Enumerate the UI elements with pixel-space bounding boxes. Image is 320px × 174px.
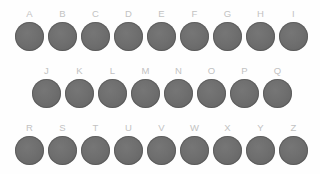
circle-disc-l[interactable] [98,79,127,108]
circle-disc-q[interactable] [263,79,292,108]
circle-row-2: J K L M N O P Q [30,66,294,108]
circle-label-v: V [158,123,165,134]
circle-label-i: I [292,9,295,20]
circle-label-s: S [59,123,66,134]
circle-disc-r[interactable] [15,136,44,165]
circle-label-z: Z [290,123,296,134]
circle-label-c: C [92,9,99,20]
circle-disc-m[interactable] [131,79,160,108]
circle-cell-y[interactable]: Y [244,123,277,165]
circle-disc-a[interactable] [15,22,44,51]
circle-label-l: L [110,66,115,77]
circle-cell-f[interactable]: F [178,9,211,51]
circle-cell-r[interactable]: R [13,123,46,165]
circle-disc-w[interactable] [180,136,209,165]
circle-disc-o[interactable] [197,79,226,108]
circle-cell-h[interactable]: H [244,9,277,51]
circle-cell-t[interactable]: T [79,123,112,165]
circle-label-a: A [26,9,33,20]
circle-label-g: G [224,9,232,20]
circle-cell-b[interactable]: B [46,9,79,51]
circle-disc-b[interactable] [48,22,77,51]
circle-cell-c[interactable]: C [79,9,112,51]
circle-disc-k[interactable] [65,79,94,108]
circle-cell-n[interactable]: N [162,66,195,108]
circle-label-d: D [125,9,132,20]
circle-cell-i[interactable]: I [277,9,310,51]
circle-disc-v[interactable] [147,136,176,165]
circle-label-u: U [125,123,132,134]
circle-label-w: W [190,123,199,134]
circle-label-q: Q [274,66,282,77]
circle-label-j: J [44,66,49,77]
circle-cell-l[interactable]: L [96,66,129,108]
circle-disc-p[interactable] [230,79,259,108]
circle-label-x: X [224,123,231,134]
circle-disc-e[interactable] [147,22,176,51]
circle-cell-z[interactable]: Z [277,123,310,165]
circle-cell-g[interactable]: G [211,9,244,51]
circle-cell-x[interactable]: X [211,123,244,165]
circle-label-y: Y [257,123,264,134]
circle-disc-g[interactable] [213,22,242,51]
circle-cell-d[interactable]: D [112,9,145,51]
circle-cell-k[interactable]: K [63,66,96,108]
circle-cell-p[interactable]: P [228,66,261,108]
circle-grid-board: A B C D E F G H [0,0,320,174]
circle-cell-j[interactable]: J [30,66,63,108]
circle-disc-z[interactable] [279,136,308,165]
circle-disc-i[interactable] [279,22,308,51]
circle-disc-y[interactable] [246,136,275,165]
circle-disc-n[interactable] [164,79,193,108]
circle-disc-h[interactable] [246,22,275,51]
circle-label-r: R [26,123,33,134]
circle-cell-a[interactable]: A [13,9,46,51]
circle-cell-o[interactable]: O [195,66,228,108]
circle-label-m: M [141,66,149,77]
circle-disc-c[interactable] [81,22,110,51]
circle-row-3: R S T U V W X Y [13,123,310,165]
circle-label-k: K [76,66,83,77]
circle-disc-d[interactable] [114,22,143,51]
circle-label-h: H [257,9,264,20]
circle-disc-x[interactable] [213,136,242,165]
circle-row-1: A B C D E F G H [13,9,310,51]
circle-cell-w[interactable]: W [178,123,211,165]
circle-cell-v[interactable]: V [145,123,178,165]
circle-disc-f[interactable] [180,22,209,51]
circle-label-n: N [175,66,182,77]
circle-label-e: E [158,9,165,20]
circle-cell-u[interactable]: U [112,123,145,165]
circle-cell-m[interactable]: M [129,66,162,108]
circle-cell-q[interactable]: Q [261,66,294,108]
circle-label-o: O [208,66,216,77]
circle-cell-e[interactable]: E [145,9,178,51]
circle-disc-u[interactable] [114,136,143,165]
circle-label-p: P [241,66,248,77]
circle-label-f: F [191,9,197,20]
circle-disc-s[interactable] [48,136,77,165]
circle-label-b: B [59,9,66,20]
circle-disc-j[interactable] [32,79,61,108]
circle-label-t: T [92,123,98,134]
circle-cell-s[interactable]: S [46,123,79,165]
circle-disc-t[interactable] [81,136,110,165]
